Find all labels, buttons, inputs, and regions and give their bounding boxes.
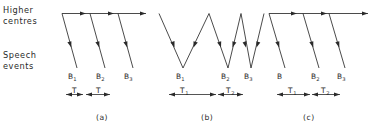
timing-diagram-figure: Higher centres Speech events [0,0,374,128]
panel-a-vertex-label-3: B 3 [124,72,133,82]
speech-events-label: Speech events [3,50,36,71]
panel-a-slant-arrowhead-1 [67,41,71,47]
panel-c-slant-3 [329,14,345,69]
panel-c-interval-head-right-2 [334,93,340,97]
panel-c-slant-arrowhead-3 [335,41,339,47]
panel-a-slant-arrowhead-3 [123,41,127,47]
panel-b-interval-head-right-1 [210,93,216,97]
panel-c-arrowhead-2 [321,11,327,15]
panel-c-vertex-label-2: B 2 [311,72,320,82]
panel-c-slant-line-1 [269,14,285,69]
panel-b-interval-1: T 1 [169,86,216,96]
panel-b-interval-label-2: T [225,86,231,95]
panel-c: B B 2 B 3 T 1 T [269,11,368,122]
panel-b-vertex-label-1: B 1 [176,72,185,82]
panel-a: B 1 B 2 B 3 T T [62,11,146,122]
panel-a-interval-head-left-2 [86,93,92,97]
panel-a-vertex-label-1: B 1 [68,72,77,82]
panel-b-vertex-sub-2: 2 [226,76,229,82]
panel-a-interval-head-right-1 [77,93,83,97]
panel-b-interval-label-1: T [179,86,185,95]
panel-a-top-line [62,11,146,15]
higher-centres-label: Higher centres [3,5,37,26]
higher-centres-label-line2: centres [3,16,37,26]
panel-c-arrowhead-1 [291,11,297,15]
panel-a-slant-3 [118,14,133,69]
panel-b-vertex-label-3: B 3 [244,72,253,82]
panel-c-slant-arrowhead-2 [309,41,313,47]
panel-a-arrowhead-2 [108,11,114,15]
panel-a-vertex-sub-3: 3 [129,76,132,82]
panel-b-vertex-sub-3: 3 [249,76,252,82]
panel-c-vertex-label-1: B [277,72,282,81]
panel-c-interval-head-left-2 [312,93,318,97]
panel-b-zigzag-path [159,14,264,69]
panel-b-interval-head-left-2 [218,93,224,97]
panel-b-interval-sub-2: 2 [231,90,234,96]
panel-b-vertex-sub-1: 1 [181,76,184,82]
panel-c-vertex-sub-3: 3 [342,76,345,82]
panel-c-vertex-base-1: B [277,72,282,81]
panel-c-vertex-sub-2: 2 [316,76,319,82]
panel-b-arrowhead-up-1 [194,41,198,47]
panel-a-caption: (a) [96,113,108,122]
panel-c-vertex-label-3: B 3 [337,72,346,82]
panel-c-interval-2: T 2 [312,86,340,96]
panel-a-slant-line-2 [90,14,105,69]
panel-b-arrowhead-down-2 [217,41,221,47]
panel-b-zigzag [159,14,264,69]
panel-c-interval-label-2: T [320,86,326,95]
panel-c-slant-1 [269,14,285,69]
panel-a-slant-arrowhead-2 [95,41,99,47]
higher-centres-label-line1: Higher [3,5,34,15]
panel-c-arrowhead-3 [362,11,368,15]
panel-c-interval-sub-2: 2 [326,90,329,96]
panel-c-interval-head-left-1 [277,93,283,97]
panel-b-arrowhead-up-3 [256,41,260,47]
panel-b-caption: (b) [201,113,213,122]
panel-a-vertex-label-2: B 2 [96,72,105,82]
panel-a-slant-line-1 [62,14,77,69]
panel-c-slant-arrowhead-1 [275,41,279,47]
panel-a-vertex-sub-2: 2 [101,76,104,82]
panel-b-interval-head-left-1 [169,93,175,97]
panel-a-slant-2 [90,14,105,69]
panel-c-interval-1: T 1 [277,86,310,96]
panel-a-interval-head-right-2 [104,93,110,97]
panel-b: B 1 B 2 B 3 T 1 T [159,14,264,123]
panel-c-interval-sub-1: 1 [293,90,296,96]
panel-b-interval-head-right-2 [237,93,243,97]
panel-a-slant-1 [62,14,77,69]
figure-container: Higher centres Speech events [0,0,374,128]
panel-a-interval-1: T [66,86,83,96]
panel-a-vertex-sub-1: 1 [73,76,76,82]
speech-events-label-line1: Speech [3,50,36,60]
panel-a-slant-line-3 [118,14,133,69]
panel-c-top-line [269,11,368,15]
panel-b-vertex-label-2: B 2 [221,72,230,82]
panel-c-interval-label-1: T [287,86,293,95]
panel-c-interval-head-right-1 [304,93,310,97]
panel-c-slant-2 [303,14,319,69]
panel-b-arrowhead-up-2 [232,41,236,47]
panel-b-interval-2: T 2 [218,86,243,96]
panel-b-interval-sub-1: 1 [185,90,188,96]
panel-a-interval-2: T [86,86,110,96]
speech-events-label-line2: events [3,61,34,71]
panel-c-slant-line-3 [329,14,345,69]
panel-a-interval-label-1: T [71,86,77,95]
panel-b-arrowhead-down-3 [243,41,247,47]
panel-a-arrowhead-3 [140,11,146,15]
panel-c-caption: (c) [303,113,315,122]
panel-a-interval-label-2: T [95,86,101,95]
panel-a-arrowhead-1 [80,11,86,15]
panel-b-arrowhead-down-1 [170,41,174,47]
panel-c-slant-line-2 [303,14,319,69]
